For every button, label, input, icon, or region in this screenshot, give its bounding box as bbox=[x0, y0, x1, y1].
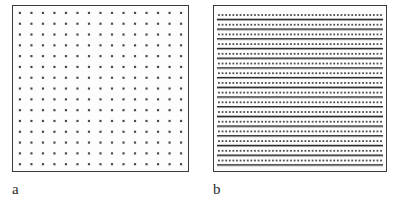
panel-b-label: b bbox=[213, 182, 221, 197]
panel-a-lattice bbox=[13, 6, 188, 171]
panel-a-label: a bbox=[12, 182, 19, 197]
panel-a bbox=[12, 5, 189, 172]
panel-b bbox=[213, 5, 387, 172]
panel-b-lattice bbox=[214, 6, 386, 171]
figure-root: a b bbox=[0, 0, 397, 207]
